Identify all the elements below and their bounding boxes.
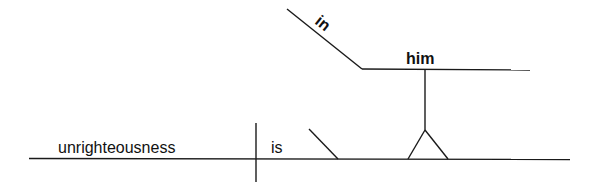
subject-word: unrighteousness (58, 139, 175, 156)
object-line (362, 69, 530, 70)
pedestal-left-leg (408, 130, 425, 159)
verb-word: is (271, 139, 283, 156)
object-word: him (406, 50, 434, 67)
main-baseline (29, 159, 570, 160)
modifier-slant-line (309, 129, 338, 159)
pedestal-right-leg (425, 130, 448, 159)
sentence-diagram: unrighteousness is in him (0, 0, 593, 190)
